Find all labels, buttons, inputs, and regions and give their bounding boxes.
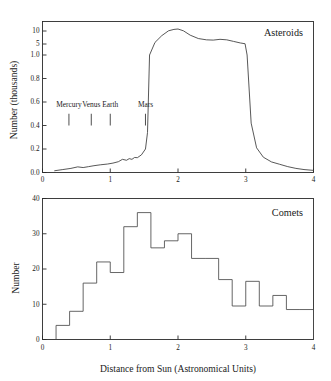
comets-y-ticks: 010203040 [32, 195, 46, 344]
comets-chart-panel: Number 010203040 01234 Comets Distance f… [0, 190, 331, 381]
planet-label-venus: Venus [82, 100, 100, 109]
asteroids-y-tick-label: 0.8 [31, 75, 40, 83]
comets-x-tick-label: 2 [176, 344, 180, 352]
asteroids-y-axis-title-text: Number (thousands) [8, 61, 20, 140]
comets-y-tick-label: 10 [32, 301, 40, 309]
comets-histogram-steps [56, 213, 313, 340]
comets-series-label: Comets [272, 207, 303, 218]
comets-x-tick-label: 1 [108, 344, 112, 352]
comets-x-ticks: 01234 [41, 336, 316, 352]
asteroids-planet-markers: MercuryVenusEarthMars [56, 100, 153, 125]
comets-x-tick-label: 4 [312, 344, 316, 352]
comets-y-tick-label: 40 [32, 195, 40, 203]
asteroids-x-ticks: 01234 [41, 169, 316, 184]
asteroids-y-tick-label: 0.0 [31, 169, 40, 177]
planet-label-earth: Earth [102, 100, 118, 109]
asteroids-x-tick-label: 3 [244, 176, 248, 184]
x-axis-title: Distance from Sun (Astronomical Units) [100, 363, 256, 375]
asteroids-y-tick-label: 1.0 [31, 51, 40, 59]
asteroids-x-tick-label: 2 [176, 176, 180, 184]
asteroids-x-tick-label: 0 [41, 176, 45, 184]
comets-y-tick-label: 30 [32, 230, 40, 238]
comets-y-axis-title: Number [10, 261, 21, 293]
asteroids-y-tick-label: 0.2 [31, 145, 40, 153]
asteroids-y-tick-label: 0.4 [31, 122, 40, 130]
planet-label-mercury: Mercury [56, 100, 82, 109]
asteroids-x-tick-label: 4 [312, 176, 316, 184]
comets-plot: Number 010203040 01234 Comets Distance f… [0, 190, 331, 381]
comets-x-tick-label: 0 [41, 344, 45, 352]
asteroids-y-tick-label-compressed: 5 [36, 40, 40, 48]
comets-plot-frame [43, 199, 314, 340]
asteroids-x-tick-label: 1 [108, 176, 112, 184]
comets-y-axis-title-text: Number [10, 261, 21, 293]
figure-root: Number (thousands) 0.00.20.40.60.81.0510… [0, 0, 331, 381]
asteroids-y-ticks: 0.00.20.40.60.81.0510 [31, 27, 47, 177]
planet-label-mars: Mars [138, 100, 153, 109]
asteroids-series-label: Asteroids [264, 27, 303, 38]
asteroids-plot-frame [43, 22, 314, 173]
asteroids-chart-panel: Number (thousands) 0.00.20.40.60.81.0510… [0, 0, 331, 190]
asteroids-y-axis-title: Number (thousands) [8, 61, 20, 140]
asteroids-plot: Number (thousands) 0.00.20.40.60.81.0510… [0, 0, 331, 190]
comets-x-tick-label: 3 [244, 344, 248, 352]
asteroids-y-tick-label: 0.6 [31, 98, 40, 106]
comets-y-tick-label: 20 [32, 265, 40, 273]
comets-y-tick-label: 0 [36, 336, 40, 344]
asteroids-y-tick-label-compressed: 10 [32, 27, 40, 35]
